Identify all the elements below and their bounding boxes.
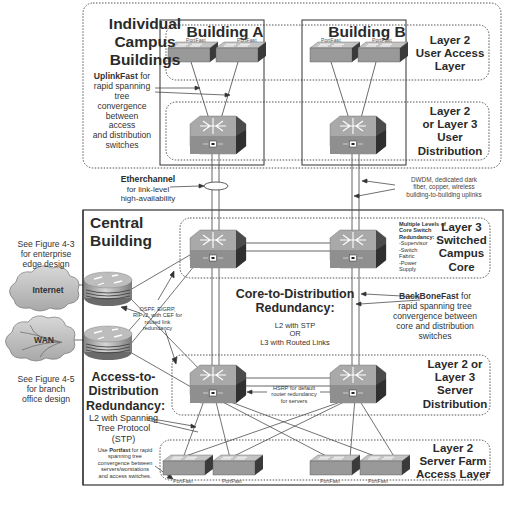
heading-line: Core-to-Distribution xyxy=(235,287,355,301)
core-to-distribution-note: Core-to-Distribution Redundancy: L2 with… xyxy=(235,287,355,348)
server-access-switch-2 xyxy=(213,455,263,475)
wan-label: WAN xyxy=(14,336,74,346)
layer-campus-core-label: Layer 3 Switched Campus Core xyxy=(434,221,489,274)
note-line: office design xyxy=(14,395,78,405)
routing-protocol-note: OSPF, EIGRP, RIPv2, with CEF for routed … xyxy=(130,306,185,332)
portfast-label: PortFast xyxy=(237,37,257,43)
note-line: redundancy xyxy=(130,325,185,331)
heading-line: Redundancy: xyxy=(86,399,161,413)
layer-line: Campus xyxy=(434,247,489,260)
note-line: (STP) xyxy=(86,434,161,444)
note-line: tree convergence xyxy=(92,92,152,112)
layer-user-distribution-label: Layer 2 or Layer 3 User Distribution xyxy=(415,105,485,158)
core-switch-right xyxy=(330,230,386,268)
note-line: for link-level xyxy=(118,185,178,194)
building-b-distribution-switch xyxy=(330,116,386,154)
note-line: switches xyxy=(92,141,152,151)
layer-line: Core xyxy=(434,261,489,274)
note-line: Use xyxy=(98,447,110,453)
note-line: for xyxy=(459,291,471,301)
title-line: Individual xyxy=(90,15,200,33)
note-line: Tree Protocol xyxy=(86,423,161,433)
layer-user-access-label: Layer 2 User Access Layer xyxy=(415,34,485,74)
etherchannel-bundle-icon xyxy=(204,182,228,190)
wan-edge-router xyxy=(84,326,132,360)
central-building-title: Central Building xyxy=(90,214,152,250)
figure-4-5-note: See Figure 4-5 for branch office design xyxy=(14,375,78,405)
portfast-label: PortFast xyxy=(320,478,340,484)
uplinkfast-keyword: UplinkFast xyxy=(94,71,138,81)
note-line: fiber, copper, wireless xyxy=(392,183,496,190)
core-switch-left xyxy=(190,230,246,268)
note-line: edge design xyxy=(14,260,78,270)
layer-line: Layer 2 xyxy=(415,34,485,47)
note-line: L3 with Routed Links xyxy=(235,339,355,348)
layer-line: Layer 3 xyxy=(420,371,490,384)
layer-server-distribution-label: Layer 2 or Layer 3 Server Distribution xyxy=(420,358,490,411)
portfast-note: Use Portfast for rapid spanning tree con… xyxy=(92,447,158,479)
layer-line: Distribution xyxy=(415,145,485,158)
note-line: L2 with Spanning xyxy=(86,413,161,423)
heading-line: Access-to- xyxy=(86,370,161,384)
internet-edge-router xyxy=(84,272,132,306)
layer-line: Server xyxy=(420,384,490,397)
figure-4-3-note: See Figure 4-3 for enterprise edge desig… xyxy=(14,240,78,270)
layer-line: Layer xyxy=(415,60,485,73)
server-access-switch-1 xyxy=(163,455,213,475)
portfast-label: PortFast xyxy=(321,37,341,43)
portfast-label: PortFast xyxy=(173,478,193,484)
internet-label: Internet xyxy=(18,286,78,296)
title-line: Buildings xyxy=(90,51,200,69)
note-line: DWDM, dedicated dark xyxy=(392,176,496,183)
server-distribution-switch-left xyxy=(190,365,246,403)
heading-line: Distribution xyxy=(86,384,161,398)
portfast-label: PortFast xyxy=(372,37,392,43)
portfast-label: PortFast xyxy=(368,478,388,484)
access-to-distribution-note: Access-to- Distribution Redundancy: L2 w… xyxy=(86,370,161,444)
backbonefast-keyword: BackBoneFast xyxy=(399,291,459,301)
title-line: Building xyxy=(90,232,152,250)
layer-line: Layer 2 or xyxy=(420,358,490,371)
etherchannel-note: Etherchannel for link-level high-availab… xyxy=(118,175,178,203)
layer-line: User xyxy=(415,131,485,144)
layer-line: Layer 3 xyxy=(434,221,489,234)
layer-line: Access Layer xyxy=(413,468,493,481)
uplinkfast-note: UplinkFast for rapid spanning tree conve… xyxy=(92,72,152,151)
layer-line: Layer 2 xyxy=(415,105,485,118)
note-line: and access switches. xyxy=(92,473,158,479)
note-line: between access xyxy=(92,112,152,132)
note-line: high-availability xyxy=(118,194,178,203)
building-a-distribution-switch xyxy=(190,116,246,154)
layer-line: Layer 2 xyxy=(413,442,493,455)
hsrp-note: HSRP for default router redundancy for s… xyxy=(258,385,330,404)
note-line: for servers xyxy=(258,398,330,404)
layer-line: or Layer 3 xyxy=(415,118,485,131)
note-line: RIPv2, with CEF for xyxy=(130,312,185,318)
heading-line: Redundancy: xyxy=(235,301,355,315)
etherchannel-keyword: Etherchannel xyxy=(118,175,178,185)
note-line: building-to-building uplinks xyxy=(392,191,496,198)
server-distribution-switch-right xyxy=(330,365,386,403)
server-access-switch-4 xyxy=(360,455,410,475)
dwdm-note: DWDM, dedicated dark fiber, copper, wire… xyxy=(392,176,496,198)
title-line: Central xyxy=(90,214,152,232)
building-b-access-switch-1 xyxy=(310,42,360,62)
note-line: for xyxy=(138,71,150,81)
backbonefast-note: BackBoneFast for rapid spanning tree con… xyxy=(380,292,490,341)
layer-server-farm-access-label: Layer 2 Server Farm Access Layer xyxy=(413,442,493,482)
building-a-access-switch-2 xyxy=(216,42,266,62)
layer-line: User Access xyxy=(415,47,485,60)
portfast-label: PortFast xyxy=(222,478,242,484)
note-line: servers/worstations xyxy=(92,466,158,472)
individual-campus-title: Individual Campus Buildings xyxy=(90,15,200,68)
note-line: switches xyxy=(380,332,490,342)
layer-line: Distribution xyxy=(420,398,490,411)
portfast-keyword: Portfast xyxy=(109,447,130,453)
server-access-switch-3 xyxy=(310,455,360,475)
layer-line: Server Farm xyxy=(413,455,493,468)
building-b-access-switch-2 xyxy=(358,42,408,62)
layer-line: Switched xyxy=(434,234,489,247)
title-line: Campus xyxy=(90,33,200,51)
note-line: for rapid xyxy=(130,447,152,453)
portfast-label: PortFast xyxy=(186,37,206,43)
